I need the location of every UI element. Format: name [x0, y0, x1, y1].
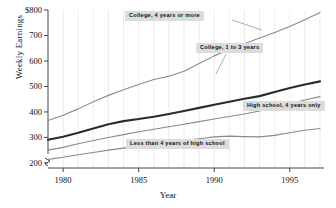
y-axis-title: Weekly Earnings	[14, 0, 24, 102]
x-axis-title: Year	[0, 190, 336, 200]
svg-text:500: 500	[29, 81, 42, 91]
series-label-less-than-hs: Less than 4 years of high school	[126, 139, 229, 149]
svg-text:1980: 1980	[55, 175, 72, 185]
series-label-high-school: High school, 4 years only	[243, 101, 325, 111]
series-label-college-4plus: College, 4 years or more	[125, 11, 204, 21]
svg-text:1985: 1985	[130, 175, 147, 185]
y-axis-ticks: $800700600500400300200	[25, 5, 48, 168]
svg-text:700: 700	[29, 30, 42, 40]
series-label-college-1to3: College, 1 to 3 years	[196, 43, 263, 53]
svg-text:600: 600	[29, 56, 42, 66]
chart-figure: Weekly Earnings Year $800700600500400300…	[0, 0, 336, 208]
svg-text:300: 300	[29, 132, 42, 142]
x-axis-ticks: 1980198519901995	[55, 168, 299, 185]
svg-text:200: 200	[29, 158, 42, 168]
svg-text:1990: 1990	[206, 175, 223, 185]
svg-text:400: 400	[29, 107, 42, 117]
svg-text:1995: 1995	[281, 175, 298, 185]
svg-text:$800: $800	[25, 5, 42, 15]
